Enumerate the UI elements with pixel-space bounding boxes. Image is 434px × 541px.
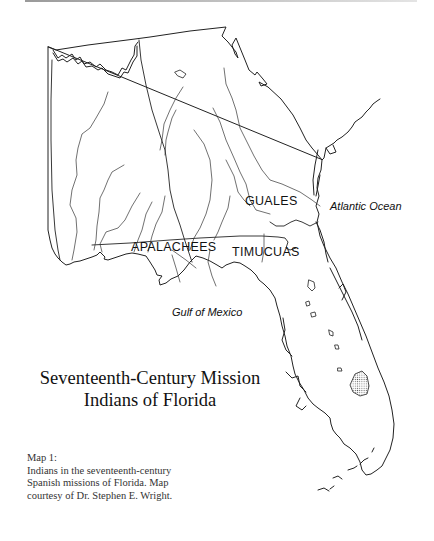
- caption-line: courtesy of Dr. Stephen E. Wright.: [27, 490, 172, 503]
- florida-keys: [318, 448, 374, 491]
- map-caption: Map 1: Indians in the seventeenth-centur…: [27, 452, 172, 502]
- lakes: [175, 70, 369, 396]
- caption-line: Spanish missions of Florida. Map: [27, 477, 172, 490]
- label-timucuas: TIMUCUAS: [232, 245, 300, 259]
- caption-line: Indians in the seventeenth-century: [27, 465, 172, 478]
- label-atlantic-ocean: Atlantic Ocean: [330, 200, 402, 212]
- label-apalachees: APALACHEES: [131, 240, 216, 254]
- label-gulf-of-mexico: Gulf of Mexico: [172, 306, 242, 318]
- caption-heading: Map 1:: [27, 452, 172, 465]
- lake-okeechobee: [350, 371, 369, 396]
- map-title-line-2: Indians of Florida: [30, 389, 270, 411]
- map-title: Seventeenth-Century Mission Indians of F…: [30, 367, 270, 411]
- map-title-line-1: Seventeenth-Century Mission: [30, 367, 270, 389]
- label-guales: GUALES: [245, 194, 298, 208]
